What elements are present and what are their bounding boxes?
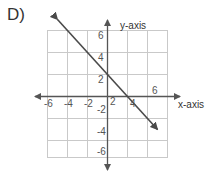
x-tick-label: 4 <box>130 98 136 109</box>
x-tick-label: 2 <box>110 96 116 107</box>
x-axis-label: x-axis <box>178 99 204 110</box>
y-tick-label: -6 <box>97 146 106 157</box>
coordinate-plane <box>0 0 213 180</box>
x-tick-label: 6 <box>152 85 158 96</box>
y-tick-label: 6 <box>98 30 104 41</box>
y-tick-label: 2 <box>98 74 104 85</box>
y-tick-label: -2 <box>97 104 106 115</box>
x-tick-label: -2 <box>84 98 93 109</box>
question-figure: D) <box>0 0 213 180</box>
y-tick-label: -4 <box>97 126 106 137</box>
y-tick-label: 4 <box>98 52 104 63</box>
y-axis-label: y-axis <box>120 20 146 31</box>
x-tick-label: -6 <box>44 98 53 109</box>
x-tick-label: -4 <box>64 98 73 109</box>
